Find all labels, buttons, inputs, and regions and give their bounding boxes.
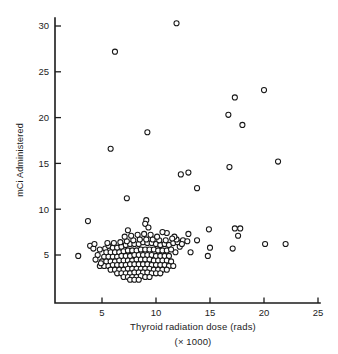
x-axis-title: Thyroid radiation dose (rads) (130, 321, 256, 332)
data-point (147, 274, 152, 279)
data-point (108, 146, 113, 151)
data-point (85, 219, 90, 224)
x-tick-label: 15 (205, 307, 216, 318)
data-point (160, 230, 165, 235)
data-point (164, 267, 169, 272)
data-point (207, 245, 212, 250)
data-point (186, 231, 191, 236)
data-point (186, 170, 191, 175)
data-point (205, 253, 210, 258)
x-axis-title-multiplier: (× 1000) (175, 336, 212, 347)
scatter-plot-figure: 510152025 51015202530 Thyroid radiation … (0, 0, 338, 354)
data-point (194, 186, 199, 191)
y-tick-label: 10 (38, 204, 49, 215)
data-point (163, 238, 168, 243)
y-axis-title: mCi Administered (15, 123, 25, 197)
data-point (227, 165, 232, 170)
y-tick-label: 25 (38, 66, 49, 77)
y-tick-label: 15 (38, 158, 49, 169)
data-point (230, 246, 235, 251)
data-point (174, 21, 179, 26)
data-point (232, 226, 237, 231)
data-point (124, 196, 129, 201)
data-point (185, 239, 190, 244)
data-point (226, 112, 231, 117)
data-points-group (76, 21, 288, 283)
y-tick-label: 20 (38, 112, 49, 123)
x-tick-group: 510152025 (99, 298, 323, 319)
data-point (122, 234, 127, 239)
data-point (129, 233, 134, 238)
data-point (170, 236, 175, 241)
data-point (169, 247, 174, 252)
data-point (188, 250, 193, 255)
plot-canvas: 510152025 51015202530 Thyroid radiation … (0, 0, 338, 354)
data-point (76, 253, 81, 258)
data-point (236, 233, 241, 238)
data-point (92, 241, 97, 246)
data-point (112, 49, 117, 54)
data-point (142, 231, 147, 236)
data-point (97, 247, 102, 252)
data-point (171, 263, 176, 268)
data-point (261, 88, 266, 93)
data-point (146, 225, 151, 230)
x-tick-label: 5 (99, 307, 104, 318)
data-point (178, 172, 183, 177)
data-point (125, 228, 130, 233)
data-point (232, 95, 237, 100)
data-point (145, 130, 150, 135)
x-tick-label: 20 (259, 307, 270, 318)
data-point (283, 241, 288, 246)
y-tick-label: 30 (38, 20, 49, 31)
data-point (135, 232, 140, 237)
data-point (144, 237, 149, 242)
data-point (275, 159, 280, 164)
data-point (111, 241, 116, 246)
data-point (263, 241, 268, 246)
data-point (179, 241, 184, 246)
data-point (93, 257, 98, 262)
x-tick-label: 25 (313, 307, 324, 318)
data-point (118, 240, 123, 245)
x-tick-label: 10 (151, 307, 162, 318)
y-tick-group: 51015202530 (38, 20, 61, 260)
data-point (194, 238, 199, 243)
data-point (158, 271, 163, 276)
data-point (136, 277, 141, 282)
data-point (240, 122, 245, 127)
y-tick-label: 5 (44, 249, 49, 260)
data-point (206, 227, 211, 232)
data-point (105, 241, 110, 246)
data-point (238, 226, 243, 231)
data-point (148, 232, 153, 237)
data-point (155, 234, 160, 239)
data-point (98, 261, 103, 266)
